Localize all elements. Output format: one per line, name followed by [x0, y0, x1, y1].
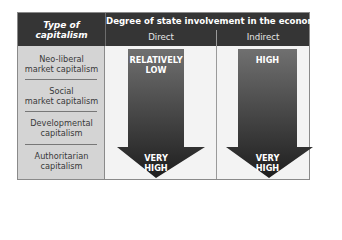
arrow-label-line1: HIGH [238, 55, 297, 65]
arrow-label-line2: LOW [128, 65, 184, 75]
arrow-indirect-bottom-label: VERY HIGH [238, 153, 297, 173]
arrow-direct-bottom-label: VERY HIGH [128, 153, 184, 173]
arrow-label-line1: VERY [238, 153, 297, 163]
arrow-label-line1: VERY [128, 153, 184, 163]
arrow-indirect-top-label: HIGH [238, 55, 297, 65]
arrow-direct-top-label: RELATIVELY LOW [128, 55, 184, 75]
arrow-label-line2: HIGH [128, 163, 184, 173]
arrow-label-line1: RELATIVELY [128, 55, 184, 65]
arrow-label-line2: HIGH [238, 163, 297, 173]
